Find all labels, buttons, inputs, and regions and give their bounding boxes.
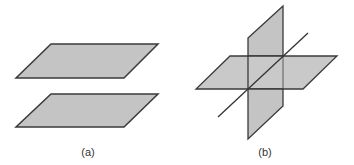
lower-plane — [16, 94, 158, 127]
panel-b-label: (b) — [258, 146, 271, 158]
vertical-plane-lower — [248, 89, 283, 139]
panel-b — [196, 6, 337, 139]
vertical-plane-upper — [248, 6, 283, 56]
panel-a — [16, 44, 158, 127]
upper-plane — [16, 44, 158, 78]
figure-canvas — [0, 0, 354, 165]
panel-a-label: (a) — [81, 146, 94, 158]
